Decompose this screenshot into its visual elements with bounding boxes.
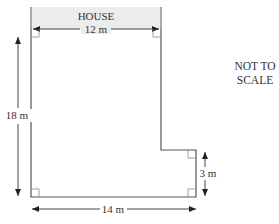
top-width-label: 12 m [85,23,108,35]
right-angle-marker-step [188,150,196,158]
not-to-scale-line-2: SCALE [237,74,273,86]
house-label: HOUSE [78,10,115,22]
right-angle-marker-bottom-right [188,189,196,197]
right-angle-marker-bottom-left [31,189,39,197]
left-height-label: 18 m [6,109,29,121]
not-to-scale-line-1: NOT TO [234,60,275,72]
right-angle-marker-top-left [31,29,39,37]
garden-plan-diagram: HOUSE 12 m 18 m 14 m 3 m NOT TO SCALE [0,0,279,224]
bottom-width-label: 14 m [102,203,125,215]
garden-outline [31,29,196,197]
step-height-label: 3 m [200,167,217,179]
right-angle-marker-top-right [153,29,161,37]
